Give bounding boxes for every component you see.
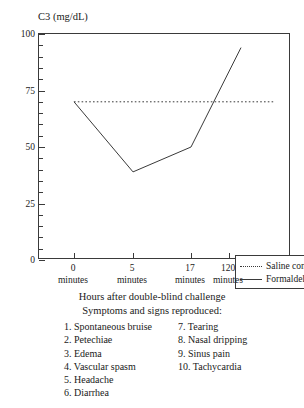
list-item: 4. Vascular spasm: [64, 360, 168, 373]
y-axis-title: C3 (mg/dL): [38, 11, 88, 23]
x-axis-label-120: 120 minutes: [213, 262, 243, 286]
y-tick-0: 0: [39, 260, 45, 261]
list-item: 7. Tearing: [178, 320, 264, 333]
symptoms-column-right: 7. Tearing 8. Nasal dripping 9. Sinus pa…: [178, 320, 264, 400]
x-axis-label-120-value: 120: [221, 263, 235, 273]
dotted-line-icon: [240, 262, 262, 270]
symptoms-list: 1. Spontaneous bruise 2. Petechiae 3. Ed…: [64, 320, 264, 400]
chart-legend: Saline control Formaldehyde: [235, 255, 304, 289]
legend-label-formaldehyde: Formaldehyde: [266, 273, 304, 285]
plot-area: 100 75 50 25 0: [38, 33, 290, 259]
x-axis-label-5-value: 5: [130, 263, 135, 273]
list-item: 8. Nasal dripping: [178, 333, 264, 346]
list-item: 5. Headache: [64, 373, 168, 386]
y-tick-label-0: 0: [30, 254, 35, 267]
list-item: 9. Sinus pain: [178, 347, 264, 360]
x-axis-label-17: 17 minutes: [175, 262, 205, 286]
list-item: 3. Edema: [64, 347, 168, 360]
list-item: 6. Diarrhea: [64, 386, 168, 399]
caption-block: Hours after double-blind challenge Sympt…: [0, 290, 304, 318]
x-axis-label-120-unit: minutes: [213, 274, 243, 286]
legend-item-saline-control: Saline control: [240, 259, 304, 272]
x-axis-label-5-unit: minutes: [117, 274, 147, 286]
chart-figure: C3 (mg/dL) 100 75 50 25 0: [0, 0, 304, 408]
list-item: 10. Tachycardia: [178, 360, 264, 373]
x-axis-label-5: 5 minutes: [117, 262, 147, 286]
x-axis-label-0: 0 minutes: [58, 262, 88, 286]
list-item: 1. Spontaneous bruise: [64, 320, 168, 333]
y-tick-label-25: 25: [26, 198, 36, 211]
x-axis-label-0-unit: minutes: [58, 274, 88, 286]
y-tick-label-75: 75: [26, 85, 36, 98]
x-axis-label-17-unit: minutes: [175, 274, 205, 286]
symptoms-column-left: 1. Spontaneous bruise 2. Petechiae 3. Ed…: [64, 320, 168, 400]
legend-label-saline-control: Saline control: [266, 260, 304, 272]
legend-item-formaldehyde: Formaldehyde: [240, 272, 304, 285]
x-axis-label-17-value: 17: [185, 263, 195, 273]
x-axis-caption: Hours after double-blind challenge: [0, 290, 304, 304]
x-axis-label-0-value: 0: [71, 263, 76, 273]
plot-inner: 100 75 50 25 0: [39, 34, 289, 258]
solid-line-icon: [240, 275, 262, 283]
list-item: 2. Petechiae: [64, 333, 168, 346]
symptoms-heading: Symptoms and signs reproduced:: [0, 304, 304, 318]
series-formaldehyde: [74, 48, 241, 172]
series-plot: [39, 34, 291, 260]
y-tick-label-100: 100: [21, 28, 35, 41]
y-tick-label-50: 50: [26, 141, 36, 154]
